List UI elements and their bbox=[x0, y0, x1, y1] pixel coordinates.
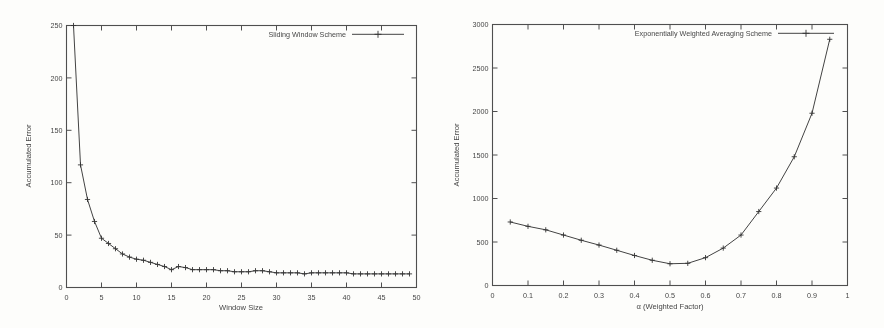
data-point-marker bbox=[232, 269, 237, 274]
data-point-marker bbox=[614, 248, 619, 253]
data-point-marker bbox=[809, 111, 814, 116]
data-point-marker bbox=[543, 227, 548, 232]
data-point-marker bbox=[169, 267, 174, 272]
left-y-ticklabels: 050100150200250 bbox=[51, 21, 63, 292]
data-point-marker bbox=[197, 267, 202, 272]
data-point-marker bbox=[561, 232, 566, 237]
left-x-ticks bbox=[67, 26, 417, 288]
data-point-marker bbox=[309, 270, 314, 275]
right-y-ticklabels: 050010001500200025003000 bbox=[473, 20, 489, 290]
x-ticklabel: 20 bbox=[203, 293, 211, 302]
x-ticklabel: 30 bbox=[273, 293, 281, 302]
data-point-marker bbox=[400, 271, 405, 276]
data-point-marker bbox=[211, 267, 216, 272]
data-point-marker bbox=[827, 37, 832, 42]
chart-panel-right: 050010001500200025003000 00.10.20.30.40.… bbox=[442, 0, 884, 328]
data-point-marker bbox=[351, 271, 356, 276]
data-point-marker bbox=[372, 271, 377, 276]
x-ticklabel: 15 bbox=[168, 293, 176, 302]
data-point-marker bbox=[365, 271, 370, 276]
data-point-marker bbox=[204, 267, 209, 272]
y-ticklabel: 500 bbox=[477, 238, 489, 247]
data-point-marker bbox=[281, 270, 286, 275]
data-point-marker bbox=[274, 270, 279, 275]
data-point-marker bbox=[337, 270, 342, 275]
data-point-marker bbox=[218, 268, 223, 273]
left-legend: Sliding Window Scheme bbox=[268, 30, 404, 39]
data-point-marker bbox=[685, 261, 690, 266]
right-xaxis-title: α (Weighted Factor) bbox=[636, 302, 704, 311]
data-point-marker bbox=[316, 270, 321, 275]
data-point-marker bbox=[302, 271, 307, 276]
data-point-marker bbox=[78, 162, 83, 167]
left-x-ticklabels: 05101520253035404550 bbox=[65, 293, 421, 302]
x-ticklabel: 50 bbox=[413, 293, 421, 302]
y-ticklabel: 3000 bbox=[473, 20, 489, 29]
data-point-marker bbox=[386, 271, 391, 276]
x-ticklabel: 40 bbox=[343, 293, 351, 302]
data-point-marker bbox=[330, 270, 335, 275]
data-point-marker bbox=[134, 257, 139, 262]
left-y-ticks bbox=[67, 26, 417, 288]
x-ticklabel: 0.5 bbox=[665, 291, 675, 300]
right-legend-label: Exponentially Weighted Averaging Scheme bbox=[635, 29, 772, 38]
data-point-marker bbox=[525, 224, 530, 229]
x-ticklabel: 0.9 bbox=[807, 291, 817, 300]
data-point-marker bbox=[393, 271, 398, 276]
data-point-marker bbox=[288, 270, 293, 275]
right-yaxis-title: Accumulated Error bbox=[452, 123, 461, 186]
right-data-markers bbox=[508, 37, 833, 267]
left-xaxis-title: Window Size bbox=[219, 303, 263, 312]
right-legend-marker-icon bbox=[803, 30, 810, 37]
data-point-marker bbox=[253, 268, 258, 273]
x-ticklabel: 10 bbox=[133, 293, 141, 302]
x-ticklabel: 35 bbox=[308, 293, 316, 302]
chart-panel-left: 050100150200250 05101520253035404550 Sli… bbox=[0, 0, 442, 328]
data-point-marker bbox=[155, 262, 160, 267]
data-point-marker bbox=[650, 258, 655, 263]
data-point-marker bbox=[176, 264, 181, 269]
right-legend: Exponentially Weighted Averaging Scheme bbox=[635, 29, 834, 38]
two-panel-figure: 050100150200250 05101520253035404550 Sli… bbox=[0, 0, 884, 328]
data-point-marker bbox=[225, 268, 230, 273]
x-ticklabel: 0.2 bbox=[559, 291, 569, 300]
data-point-marker bbox=[379, 271, 384, 276]
data-point-marker bbox=[92, 219, 97, 224]
data-point-marker bbox=[792, 154, 797, 159]
data-point-marker bbox=[295, 270, 300, 275]
data-point-marker bbox=[267, 269, 272, 274]
y-ticklabel: 2500 bbox=[473, 64, 489, 73]
data-point-marker bbox=[596, 242, 601, 247]
data-point-marker bbox=[667, 261, 672, 266]
data-point-marker bbox=[632, 253, 637, 258]
data-point-marker bbox=[508, 219, 513, 224]
y-ticklabel: 1500 bbox=[473, 151, 489, 160]
x-ticklabel: 5 bbox=[100, 293, 104, 302]
left-yaxis-title: Accumulated Error bbox=[24, 124, 33, 187]
x-ticklabel: 0.3 bbox=[594, 291, 604, 300]
x-ticklabel: 0 bbox=[491, 291, 495, 300]
data-point-marker bbox=[407, 271, 412, 276]
left-data-markers bbox=[71, 23, 412, 277]
data-point-marker bbox=[71, 23, 76, 28]
y-ticklabel: 200 bbox=[51, 74, 63, 83]
data-point-marker bbox=[358, 271, 363, 276]
data-point-marker bbox=[148, 260, 153, 265]
x-ticklabel: 25 bbox=[238, 293, 246, 302]
x-ticklabel: 0.6 bbox=[701, 291, 711, 300]
data-point-marker bbox=[703, 255, 708, 260]
right-x-ticklabels: 00.10.20.30.40.50.60.70.80.91 bbox=[491, 291, 850, 300]
data-point-marker bbox=[323, 270, 328, 275]
data-point-marker bbox=[579, 238, 584, 243]
data-point-marker bbox=[239, 269, 244, 274]
y-ticklabel: 0 bbox=[485, 281, 489, 290]
x-ticklabel: 0.4 bbox=[630, 291, 640, 300]
x-ticklabel: 0 bbox=[65, 293, 69, 302]
x-ticklabel: 0.1 bbox=[523, 291, 533, 300]
y-ticklabel: 0 bbox=[59, 283, 63, 292]
x-ticklabel: 0.8 bbox=[772, 291, 782, 300]
y-ticklabel: 250 bbox=[51, 21, 63, 30]
data-point-marker bbox=[344, 270, 349, 275]
left-legend-label: Sliding Window Scheme bbox=[268, 30, 346, 39]
x-ticklabel: 45 bbox=[378, 293, 386, 302]
